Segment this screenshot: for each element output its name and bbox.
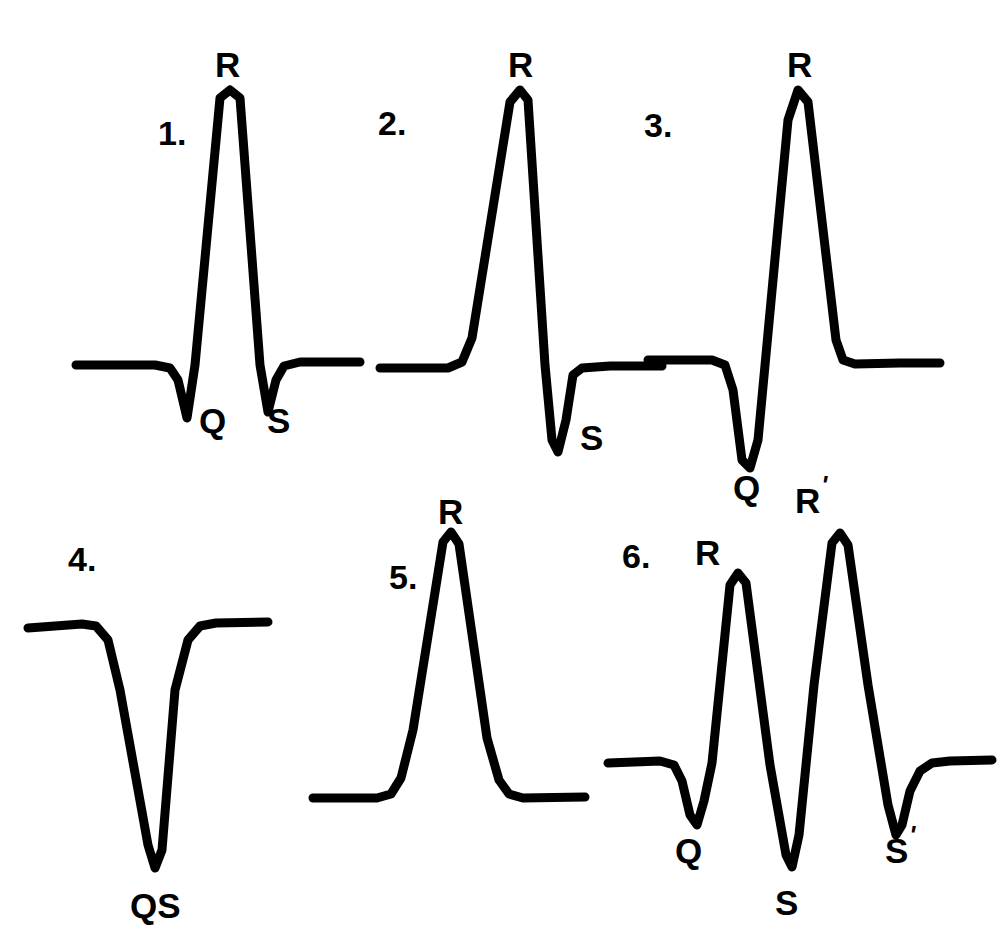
prime-mark-icon: ' xyxy=(909,821,915,849)
qrs-trace-1 xyxy=(76,90,360,418)
s-wave-label: S xyxy=(580,420,603,455)
r-prime-wave-label: R' xyxy=(795,483,826,518)
panel-index-4: 4. xyxy=(68,542,96,576)
r-wave-label: R xyxy=(695,535,720,570)
s-prime-wave-label: S' xyxy=(885,833,914,868)
s-prime-letter: S xyxy=(885,831,908,870)
r-wave-label: R xyxy=(215,47,240,82)
q-wave-label: Q xyxy=(199,403,226,438)
panel-1-waveform xyxy=(60,20,370,450)
q-wave-label: Q xyxy=(675,833,702,868)
panel-5-waveform xyxy=(305,500,595,830)
r-wave-label: R xyxy=(787,47,812,82)
panel-3-waveform xyxy=(640,20,940,520)
qrs-trace-3 xyxy=(648,90,940,468)
qs-wave-label: QS xyxy=(130,888,181,923)
panel-index-6: 6. xyxy=(622,539,650,573)
qrs-trace-5 xyxy=(313,532,585,798)
panel-3: 3. R Q xyxy=(640,20,940,520)
r-wave-label: R xyxy=(438,494,463,529)
panel-2-waveform xyxy=(370,20,670,480)
panel-index-3: 3. xyxy=(644,108,672,142)
r-wave-label: R xyxy=(508,47,533,82)
qrs-trace-6 xyxy=(608,533,992,867)
panel-6: 6. R R' Q S S' xyxy=(600,485,1000,935)
panel-4: 4. QS xyxy=(20,500,300,940)
panel-index-2: 2. xyxy=(378,106,406,140)
r-prime-letter: R xyxy=(795,481,820,520)
prime-mark-icon: ' xyxy=(821,471,827,499)
panel-5: 5. R xyxy=(305,500,595,830)
panel-index-1: 1. xyxy=(158,116,186,150)
panel-2: 2. R S xyxy=(370,20,670,480)
panel-6-waveform xyxy=(600,485,1000,935)
qrs-trace-2 xyxy=(380,90,662,452)
panel-1: 1. R Q S xyxy=(60,20,370,450)
qrs-trace-4 xyxy=(28,622,268,868)
panel-index-5: 5. xyxy=(389,560,417,594)
s-wave-label: S xyxy=(267,403,290,438)
s-wave-label: S xyxy=(775,885,798,920)
panel-4-waveform xyxy=(20,500,300,940)
